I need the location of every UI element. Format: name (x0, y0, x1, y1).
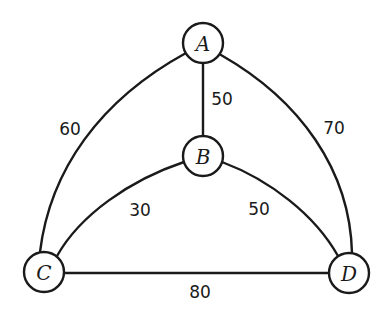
edge-a-d (221, 55, 352, 253)
edge-label-a-b: 50 (211, 89, 233, 109)
node-a: A (183, 23, 223, 63)
node-c-label: C (36, 261, 51, 285)
edge-label-b-c: 30 (129, 200, 151, 220)
graph-diagram: 60 50 70 30 50 80 A B C D (0, 0, 388, 327)
edge-label-c-d: 80 (189, 282, 211, 302)
node-a-label: A (194, 32, 210, 56)
node-b-label: B (195, 145, 211, 169)
edge-a-c (40, 53, 186, 252)
node-c: C (24, 252, 64, 292)
edge-label-b-d: 50 (248, 199, 270, 219)
node-b: B (183, 136, 223, 176)
edge-label-a-c: 60 (59, 119, 81, 139)
node-d: D (329, 253, 369, 293)
node-d-label: D (340, 262, 357, 286)
edge-b-d (222, 162, 338, 256)
edge-b-c (57, 162, 184, 256)
edge-label-a-d: 70 (323, 118, 345, 138)
